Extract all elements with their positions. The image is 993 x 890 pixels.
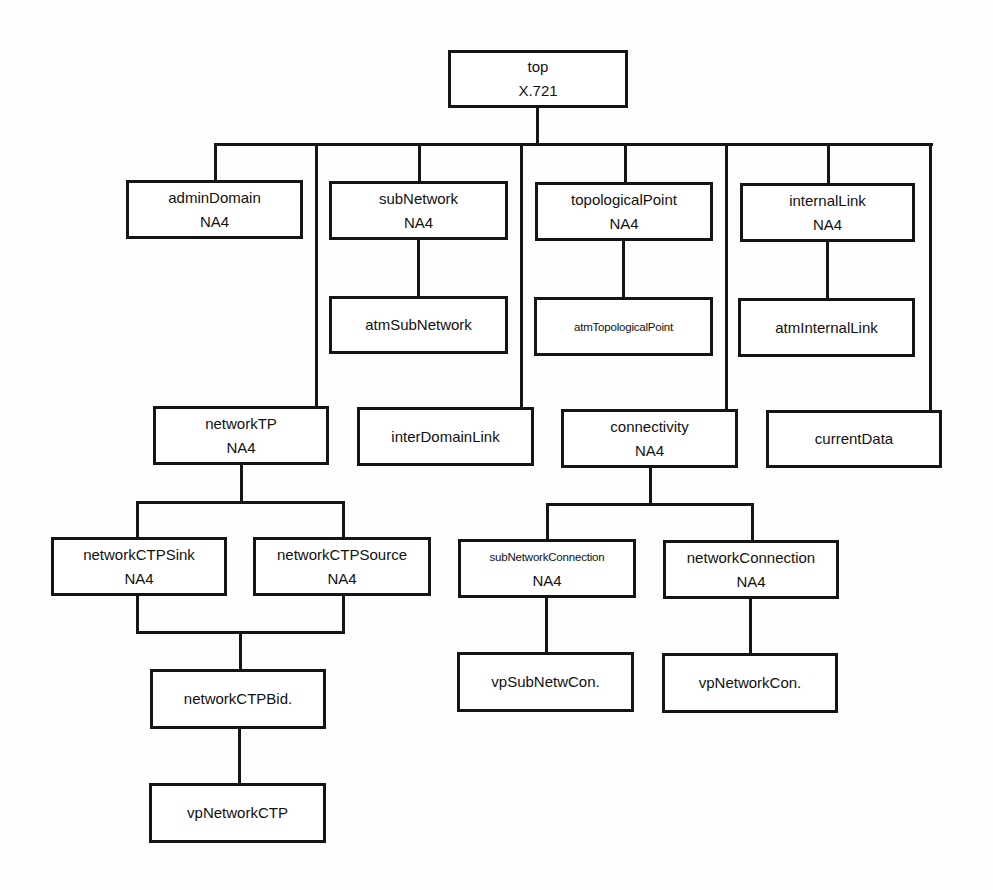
node-ref: NA4	[736, 570, 765, 594]
node-ref: NA4	[813, 213, 842, 237]
node-interdomainlink: interDomainLink	[357, 407, 534, 466]
node-label: networkConnection	[687, 546, 815, 570]
connector-nc	[751, 503, 754, 542]
connector-networktp	[315, 143, 318, 408]
node-ref: NA4	[200, 210, 229, 234]
connector-subnetwork-atm	[417, 238, 420, 297]
node-ref: NA4	[226, 436, 255, 460]
node-label: adminDomain	[168, 186, 261, 210]
node-label: subNetworkConnection	[490, 545, 605, 569]
node-label: atmInternalLink	[775, 316, 878, 340]
connector-currentdata	[929, 143, 932, 412]
node-label: vpNetworkCon.	[699, 671, 802, 695]
node-label: connectivity	[610, 415, 688, 439]
connector-internallink-atm	[826, 240, 829, 299]
node-label: topologicalPoint	[571, 188, 677, 212]
connector-subnetwork	[418, 143, 421, 183]
node-ref: NA4	[609, 212, 638, 236]
node-label: interDomainLink	[391, 425, 499, 449]
node-label: vpNetworkCTP	[187, 801, 288, 825]
node-label: internalLink	[789, 189, 866, 213]
connector-vpsnc	[545, 595, 548, 653]
connector-interdomainlink	[520, 143, 523, 409]
node-networkctpsink: networkCTPSink NA4	[51, 537, 227, 596]
connector-snc	[546, 503, 549, 540]
connector-connectivity-bus	[546, 503, 754, 506]
node-label: vpSubNetwCon.	[491, 670, 599, 694]
node-ref: NA4	[635, 439, 664, 463]
node-subnetworkconnection: subNetworkConnection NA4	[458, 539, 636, 598]
node-top: top X.721	[448, 50, 628, 108]
connector-ctpbid	[239, 631, 242, 670]
node-atmsubnetwork: atmSubNetwork	[329, 296, 508, 354]
node-label: currentData	[815, 427, 893, 451]
node-admindomain: adminDomain NA4	[126, 180, 303, 239]
connector-networktp-down	[240, 462, 243, 503]
node-vpnetworkctp: vpNetworkCTP	[149, 783, 326, 843]
connector-vpnc	[749, 596, 752, 654]
node-vpsubnetwcon: vpSubNetwCon.	[457, 652, 634, 712]
node-label: subNetwork	[379, 187, 458, 211]
connector-top-down	[536, 106, 539, 146]
connector-ctpsource	[342, 501, 345, 538]
node-networkctpsource: networkCTPSource NA4	[253, 537, 431, 596]
node-label: top	[528, 55, 549, 79]
connector-topologicalpoint-atm	[622, 240, 625, 299]
node-currentdata: currentData	[766, 410, 942, 468]
node-label: networkTP	[205, 412, 277, 436]
node-label: networkCTPSink	[83, 543, 195, 567]
node-networktp: networkTP NA4	[153, 406, 329, 465]
node-label: atmTopologicalPoint	[574, 315, 673, 339]
node-atmtopologicalpoint: atmTopologicalPoint	[534, 297, 713, 356]
connector-topologicalpoint	[624, 143, 627, 184]
connector-admindomain	[214, 143, 217, 181]
node-subnetwork: subNetwork NA4	[329, 181, 508, 240]
connector-top-bus	[214, 143, 933, 146]
node-ref: NA4	[532, 569, 561, 593]
node-networkconnection: networkConnection NA4	[663, 540, 839, 599]
node-label: atmSubNetwork	[365, 313, 472, 337]
connector-ctpsink-merge	[136, 594, 139, 633]
node-internallink: internalLink NA4	[740, 183, 915, 242]
node-atminternallink: atmInternalLink	[738, 298, 915, 357]
connector-ctpsource-merge	[342, 594, 345, 633]
connector-vpnetworkctp	[238, 726, 241, 784]
node-topologicalpoint: topologicalPoint NA4	[535, 182, 713, 241]
connector-networktp-bus	[136, 501, 345, 504]
node-networkctpbid: networkCTPBid.	[150, 669, 326, 729]
connector-ctpsink	[136, 501, 139, 538]
node-ref: NA4	[404, 211, 433, 235]
node-connectivity: connectivity NA4	[561, 409, 738, 468]
node-label: networkCTPBid.	[184, 687, 292, 711]
node-vpnetworkcon: vpNetworkCon.	[662, 653, 838, 713]
node-ref: NA4	[124, 567, 153, 591]
connector-connectivity	[725, 143, 728, 411]
node-ref: NA4	[327, 567, 356, 591]
node-label: networkCTPSource	[277, 543, 407, 567]
connector-internallink	[827, 143, 830, 185]
node-ref: X.721	[518, 79, 557, 103]
connector-connectivity-down	[649, 465, 652, 504]
